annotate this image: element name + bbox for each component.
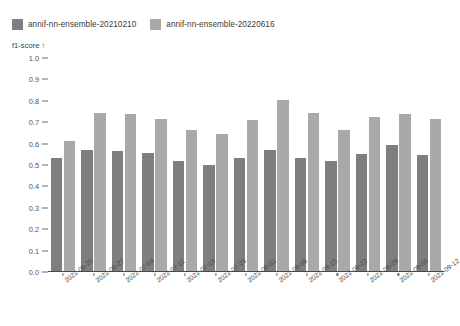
bar-group: [109, 58, 139, 272]
y-axis-tick-label: 0.2: [19, 225, 39, 234]
bar-group: [292, 58, 322, 272]
bar[interactable]: [234, 158, 246, 272]
x-axis-tick: 2022-07-11: [139, 273, 169, 325]
x-axis-tick: 2022-08-01: [231, 273, 261, 325]
x-axis-tick: 2022-07-25: [200, 273, 230, 325]
y-axis-tick-label: 0.4: [19, 182, 39, 191]
x-axis-tick-mark: [337, 273, 338, 276]
x-axis-tick-mark: [367, 273, 368, 276]
x-axis-tick: 2022-07-04: [109, 273, 139, 325]
bar-group: [139, 58, 169, 272]
x-axis-tick: 2022-08-08: [261, 273, 291, 325]
y-axis-tick-label: 0.3: [19, 203, 39, 212]
bar[interactable]: [112, 151, 124, 272]
x-axis-tick-mark: [276, 273, 277, 276]
bar[interactable]: [295, 158, 307, 272]
bar[interactable]: [356, 154, 368, 272]
y-axis-tick-label: 0.9: [19, 75, 39, 84]
bar[interactable]: [125, 114, 137, 272]
bar[interactable]: [264, 150, 276, 272]
chart-legend: annif-nn-ensemble-20210210 annif-nn-ense…: [12, 18, 275, 31]
bar-group: [261, 58, 291, 272]
bar-group: [78, 58, 108, 272]
bar[interactable]: [277, 100, 289, 272]
bar-group: [231, 58, 261, 272]
y-axis-tick-label: 0.1: [19, 246, 39, 255]
bar-group: [383, 58, 413, 272]
bar[interactable]: [399, 114, 411, 272]
x-axis-tick: 2022-08-15: [292, 273, 322, 325]
bar[interactable]: [64, 141, 76, 272]
y-axis-tick: 0.2: [19, 225, 48, 234]
y-axis-tick: 0.4: [19, 182, 48, 191]
x-axis-tick-mark: [215, 273, 216, 276]
bar-group: [353, 58, 383, 272]
x-axis-tick-mark: [124, 273, 125, 276]
legend-swatch-icon: [150, 19, 161, 30]
x-axis-tick-mark: [63, 273, 64, 276]
bar[interactable]: [142, 153, 154, 272]
y-axis-tick-label: 0.0: [19, 268, 39, 277]
bar[interactable]: [186, 130, 198, 272]
x-axis-tick-mark: [306, 273, 307, 276]
x-axis-tick: 2022-09-12: [414, 273, 444, 325]
bar[interactable]: [155, 119, 167, 272]
bar[interactable]: [369, 117, 381, 272]
y-axis-tick: 0.8: [19, 96, 48, 105]
x-axis-tick: 2022-07-18: [170, 273, 200, 325]
bar[interactable]: [81, 150, 93, 272]
bar[interactable]: [203, 165, 215, 272]
y-axis-tick-label: 0.7: [19, 118, 39, 127]
bar[interactable]: [308, 113, 320, 272]
bar[interactable]: [94, 113, 106, 272]
y-axis-tick: 0.5: [19, 161, 48, 170]
x-axis-labels: 2022-06-202022-06-272022-07-042022-07-11…: [48, 273, 444, 325]
plot-area: 1.00.90.80.70.60.50.40.30.20.10.0: [48, 58, 444, 272]
y-axis-tick: 0.6: [19, 139, 48, 148]
y-axis-tick-label: 0.6: [19, 139, 39, 148]
x-axis-tick: 2022-08-22: [322, 273, 352, 325]
bar[interactable]: [338, 130, 350, 272]
legend-item-label: annif-nn-ensemble-20210210: [28, 19, 136, 30]
y-axis-title: f1-score ↑: [12, 41, 45, 50]
bar[interactable]: [430, 119, 442, 272]
bar[interactable]: [216, 134, 228, 272]
bar-group: [414, 58, 444, 272]
y-axis-tick-label: 0.8: [19, 96, 39, 105]
x-axis-tick-mark: [154, 273, 155, 276]
x-axis-tick: 2022-09-05: [383, 273, 413, 325]
bar[interactable]: [247, 120, 259, 272]
bar-groups: [48, 58, 444, 272]
x-axis-tick-mark: [185, 273, 186, 276]
x-axis-tick-mark: [93, 273, 94, 276]
y-axis-tick: 0.9: [19, 75, 48, 84]
bar[interactable]: [173, 161, 185, 272]
x-axis-tick: 2022-06-27: [78, 273, 108, 325]
bar-group: [322, 58, 352, 272]
bar-group: [48, 58, 78, 272]
legend-item-label: annif-nn-ensemble-20220616: [166, 19, 274, 30]
legend-item-0[interactable]: annif-nn-ensemble-20210210: [12, 19, 136, 30]
y-axis-tick-label: 1.0: [19, 54, 39, 63]
x-axis-tick: 2022-06-20: [48, 273, 78, 325]
bar-group: [200, 58, 230, 272]
x-axis-tick-mark: [428, 273, 429, 276]
x-axis-tick-mark: [398, 273, 399, 276]
bar[interactable]: [325, 161, 337, 272]
y-axis-tick: 0.1: [19, 246, 48, 255]
bar-group: [170, 58, 200, 272]
y-axis-tick: 0.3: [19, 203, 48, 212]
legend-item-1[interactable]: annif-nn-ensemble-20220616: [150, 19, 274, 30]
bar[interactable]: [417, 155, 429, 272]
y-axis-tick: 0.7: [19, 118, 48, 127]
y-axis-tick: 0.0: [19, 268, 48, 277]
bar[interactable]: [51, 158, 63, 272]
bar[interactable]: [386, 145, 398, 272]
x-axis-tick: 2022-08-29: [353, 273, 383, 325]
y-axis-tick: 1.0: [19, 54, 48, 63]
x-axis-tick-mark: [245, 273, 246, 276]
bar-chart: annif-nn-ensemble-20210210 annif-nn-ense…: [0, 0, 460, 326]
legend-swatch-icon: [12, 19, 23, 30]
y-axis-tick-label: 0.5: [19, 161, 39, 170]
